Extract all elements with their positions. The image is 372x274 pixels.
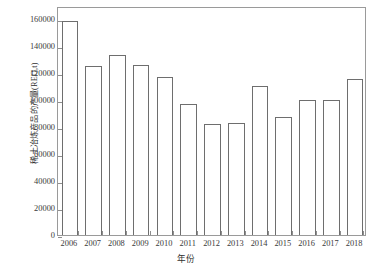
bar-2007 bbox=[85, 66, 102, 235]
bar-2014 bbox=[252, 86, 269, 235]
x-tick-mark bbox=[245, 231, 246, 235]
x-tick-mark bbox=[197, 231, 198, 235]
y-tick-label: 0 bbox=[3, 232, 55, 240]
x-tick-mark bbox=[221, 231, 222, 235]
bar-2016 bbox=[299, 100, 316, 235]
bar-2008 bbox=[109, 55, 126, 235]
y-tick-label: 20000 bbox=[3, 205, 55, 213]
bar-2009 bbox=[133, 65, 150, 235]
bar-2013 bbox=[228, 123, 245, 235]
x-tick-mark bbox=[173, 231, 174, 235]
x-axis-title: 年份 bbox=[0, 252, 372, 264]
x-tick-mark bbox=[150, 231, 151, 235]
x-tick-mark bbox=[340, 231, 341, 235]
y-tick-label: 100000 bbox=[3, 97, 55, 105]
x-tick-label-2018: 2018 bbox=[334, 239, 372, 248]
x-tick-mark bbox=[102, 231, 103, 235]
bar-2011 bbox=[180, 104, 197, 235]
plot-area: 0200004000060000800001000001200001400001… bbox=[57, 7, 366, 236]
x-tick-mark bbox=[78, 231, 79, 235]
y-tick-mark bbox=[58, 237, 62, 238]
bar-2017 bbox=[323, 100, 340, 235]
x-tick-mark bbox=[316, 231, 317, 235]
x-tick-mark bbox=[363, 231, 364, 235]
x-tick-mark bbox=[268, 231, 269, 235]
y-tick-label: 60000 bbox=[3, 151, 55, 159]
y-tick-label: 120000 bbox=[3, 70, 55, 78]
bar-2006 bbox=[62, 21, 79, 235]
bar-2015 bbox=[275, 117, 292, 235]
y-tick-label: 80000 bbox=[3, 124, 55, 132]
x-tick-mark bbox=[292, 231, 293, 235]
y-tick-label: 40000 bbox=[3, 178, 55, 186]
y-tick-label: 140000 bbox=[3, 43, 55, 51]
bar-2012 bbox=[204, 124, 221, 235]
bar-chart: 稀土冶炼产品的产量(REO,t) 02000040000600008000010… bbox=[0, 0, 372, 274]
bar-2010 bbox=[157, 77, 174, 235]
x-tick-mark bbox=[126, 231, 127, 235]
bar-2018 bbox=[347, 79, 364, 235]
y-tick-label: 160000 bbox=[3, 16, 55, 24]
